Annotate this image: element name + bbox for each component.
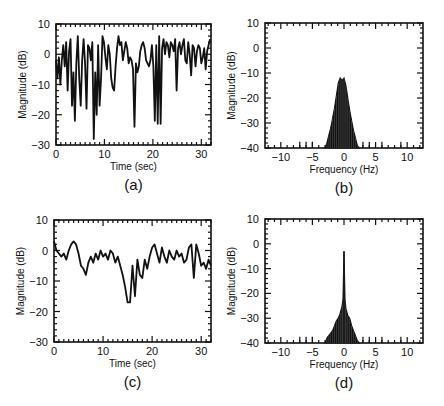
x-axis-title: Frequency (Hz) — [310, 359, 379, 370]
x-axis-title: Frequency (Hz) — [310, 164, 379, 175]
y-axis-title: Magnitude (dB) — [17, 50, 28, 118]
panel-label: (b) — [335, 179, 353, 196]
y-tick-label: −40 — [240, 142, 259, 154]
chart-panel-a: 100−10−20−300102030Time (sec)Magnitude (… — [17, 18, 211, 193]
x-tick-label: 20 — [147, 148, 159, 160]
y-tick-label: 10 — [36, 214, 48, 226]
figure-canvas: 100−10−20−300102030Time (sec)Magnitude (… — [0, 0, 444, 406]
y-tick-label: 0 — [253, 42, 259, 54]
x-tick-label: 5 — [373, 346, 379, 358]
x-tick-label: −10 — [271, 151, 290, 163]
y-tick-label: −30 — [31, 139, 50, 151]
panel-label: (a) — [124, 176, 142, 193]
panel-label: (c) — [124, 373, 142, 390]
x-tick-label: 0 — [341, 346, 347, 358]
y-tick-label: −30 — [240, 312, 259, 324]
panel-label: (d) — [335, 374, 353, 391]
x-tick-label: 0 — [341, 151, 347, 163]
x-tick-label: −5 — [306, 151, 319, 163]
y-tick-label: 10 — [38, 18, 50, 30]
x-tick-label: 30 — [195, 345, 207, 357]
y-tick-label: −20 — [29, 306, 48, 318]
y-tick-label: −40 — [240, 337, 259, 349]
y-tick-label: −10 — [31, 79, 50, 91]
x-tick-label: −5 — [306, 346, 319, 358]
x-tick-label: 20 — [146, 345, 158, 357]
y-tick-label: −30 — [240, 117, 259, 129]
y-tick-label: −30 — [29, 336, 48, 348]
y-tick-label: −20 — [240, 287, 259, 299]
y-tick-label: −10 — [240, 263, 259, 275]
x-axis-title: Time (sec) — [110, 161, 157, 172]
time-series — [54, 241, 211, 302]
plot-frame — [54, 220, 211, 342]
x-tick-label: 30 — [195, 148, 207, 160]
x-tick-label: 10 — [98, 148, 110, 160]
y-tick-label: −10 — [240, 67, 259, 79]
x-tick-label: 10 — [97, 345, 109, 357]
x-tick-label: 0 — [51, 345, 57, 357]
y-axis-title: Magnitude (dB) — [15, 247, 26, 315]
time-series — [56, 36, 210, 139]
chart-panel-c: 100−10−20−300102030Time (sec)Magnitude (… — [15, 214, 211, 390]
x-tick-label: 5 — [373, 151, 379, 163]
y-tick-label: 0 — [253, 238, 259, 250]
y-tick-label: 10 — [247, 213, 259, 225]
y-tick-label: 0 — [44, 48, 50, 60]
x-axis-title: Time (sec) — [109, 358, 156, 369]
x-tick-label: −10 — [271, 346, 290, 358]
x-tick-label: 10 — [401, 151, 413, 163]
y-tick-label: −20 — [31, 109, 50, 121]
chart-panel-b: 100−10−20−30−40−10−50510Frequency (Hz)Ma… — [226, 17, 423, 196]
y-axis-title: Magnitude (dB) — [226, 247, 237, 315]
y-tick-label: −10 — [29, 275, 48, 287]
x-tick-label: 10 — [401, 346, 413, 358]
x-tick-label: 0 — [53, 148, 59, 160]
y-tick-label: 10 — [247, 17, 259, 29]
chart-panel-d: 100−10−20−30−40−10−50510Frequency (Hz)Ma… — [226, 213, 423, 391]
y-axis-title: Magnitude (dB) — [226, 51, 237, 119]
y-tick-label: −20 — [240, 92, 259, 104]
y-tick-label: 0 — [42, 245, 48, 257]
